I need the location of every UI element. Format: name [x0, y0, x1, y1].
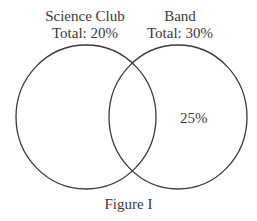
circle-band	[109, 45, 247, 189]
circle-science-club	[16, 45, 156, 189]
band-only-value: 25%	[180, 110, 208, 127]
figure-caption: Figure I	[0, 196, 257, 213]
venn-diagram	[0, 0, 257, 221]
